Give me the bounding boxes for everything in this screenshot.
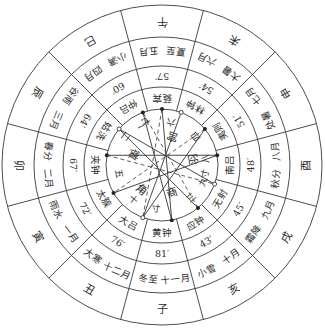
pipe-length-label: 54′ xyxy=(197,80,215,97)
pitch-name-label: 蕤宾 xyxy=(152,93,172,104)
solar-term-label: 大暑 xyxy=(220,63,243,84)
pitch-name-label: 黄钟 xyxy=(152,227,172,238)
month-label: 一月 xyxy=(60,223,81,246)
branch-label: 丑 xyxy=(82,281,98,298)
chord-endpoint-marker xyxy=(117,127,121,131)
solar-term-label: 小满 xyxy=(106,51,129,69)
month-label: 二月 xyxy=(42,168,55,189)
branch-label: 未 xyxy=(226,32,242,49)
chord-endpoint-marker xyxy=(170,218,174,222)
wheel-svg: 子十一月冬至81′黄钟丑十二月大寒76′大吕寅一月雨水72′太簇卯二月春分67′… xyxy=(0,0,325,328)
inner-number-label: 四 xyxy=(189,130,202,143)
inner-number-label: 寸 xyxy=(151,202,161,214)
chord-endpoint-marker xyxy=(213,182,217,186)
pipe-length-label: 45′ xyxy=(230,200,247,218)
pipe-length-label: 64′ xyxy=(77,112,94,130)
pitch-name-label: 夹钟 xyxy=(90,155,101,175)
month-label: 十一月 xyxy=(160,271,191,286)
branch-label: 申 xyxy=(278,85,295,101)
solar-term-label: 夏至 xyxy=(165,45,186,58)
pipe-length-label: 57′ xyxy=(155,71,169,82)
pipe-length-label: 60′ xyxy=(109,80,127,97)
branch-label: 寅 xyxy=(29,228,47,245)
pitch-name-label: 大吕 xyxy=(117,213,140,233)
month-label: 四月 xyxy=(82,63,105,84)
pitch-name-label: 无射 xyxy=(210,187,230,210)
pipe-length-label: 72′ xyxy=(77,200,94,218)
branch-label: 巳 xyxy=(82,32,98,49)
pitch-name-label: 应钟 xyxy=(184,213,207,233)
pitch-name-label: 太簇 xyxy=(94,187,114,210)
inner-number-label: 六 xyxy=(165,116,176,129)
chord-endpoint-marker xyxy=(112,191,116,195)
month-label: 五月 xyxy=(137,45,158,58)
pipe-length-label: 51′ xyxy=(230,112,247,130)
solar-term-label: 谷雨 xyxy=(60,85,81,108)
month-label: 八月 xyxy=(269,140,282,161)
pitch-name-label: 南吕 xyxy=(224,155,235,175)
pipe-length-label: 43′ xyxy=(197,233,215,250)
pitch-name-label: 姑洗 xyxy=(94,120,114,143)
branch-label: 亥 xyxy=(225,280,242,298)
branch-label: 戌 xyxy=(278,229,295,245)
chord-endpoint-marker xyxy=(141,216,145,220)
solar-term-label: 处暑 xyxy=(258,109,276,132)
month-label: 九月 xyxy=(258,198,276,221)
branch-label: 午 xyxy=(157,15,168,28)
month-label: 七月 xyxy=(243,85,264,108)
pipe-length-label: 81′ xyxy=(155,248,169,259)
scale-degree-label: 宫 xyxy=(165,129,180,146)
solar-term-label: 春分 xyxy=(42,140,55,161)
inner-number-label: 八 xyxy=(200,154,211,164)
month-label: 六月 xyxy=(195,51,218,69)
pitch-name-label: 仲吕 xyxy=(117,97,140,117)
inner-number-label: 五 xyxy=(113,169,125,180)
month-label: 十二月 xyxy=(101,259,133,281)
pipe-length-label: 67′ xyxy=(68,158,79,172)
solar-term-label: 秋分 xyxy=(269,168,282,189)
chord-endpoint-marker xyxy=(105,153,109,157)
chord-endpoint-marker xyxy=(141,110,145,114)
solar-term-label: 雨水 xyxy=(48,198,66,221)
month-label: 三月 xyxy=(48,109,66,132)
branch-label: 卯 xyxy=(12,160,25,171)
branch-label: 子 xyxy=(157,303,168,316)
chord-endpoint-marker xyxy=(160,107,164,111)
solar-term-label: 大寒 xyxy=(82,246,105,267)
pitch-name-label: 夷则 xyxy=(210,120,230,143)
solar-term-label: 冬至 xyxy=(137,272,158,285)
solar-term-label: 霜降 xyxy=(243,223,264,246)
branch-label: 酉 xyxy=(300,160,313,171)
solar-term-label: 小雪 xyxy=(195,261,218,279)
chord-endpoint-marker xyxy=(215,153,219,157)
pitch-name-label: 林钟 xyxy=(184,97,207,117)
inner-number-label: 三 xyxy=(185,191,198,204)
pipe-length-label: 76′ xyxy=(109,233,127,250)
scale-degree-label: 羽 xyxy=(186,153,201,166)
inner-number-label: 二 xyxy=(119,130,132,143)
pitch-pipe-wheel-diagram: 子十一月冬至81′黄钟丑十二月大寒76′大吕寅一月雨水72′太簇卯二月春分67′… xyxy=(0,0,325,328)
inner-number-label: 寸 xyxy=(198,168,211,179)
pipe-length-label: 48′ xyxy=(245,158,256,172)
branch-label: 辰 xyxy=(29,85,46,101)
month-label: 十月 xyxy=(220,246,243,267)
chord-endpoint-marker xyxy=(179,110,183,114)
chord-endpoint-marker xyxy=(196,206,200,210)
chord-endpoint-marker xyxy=(203,127,207,131)
